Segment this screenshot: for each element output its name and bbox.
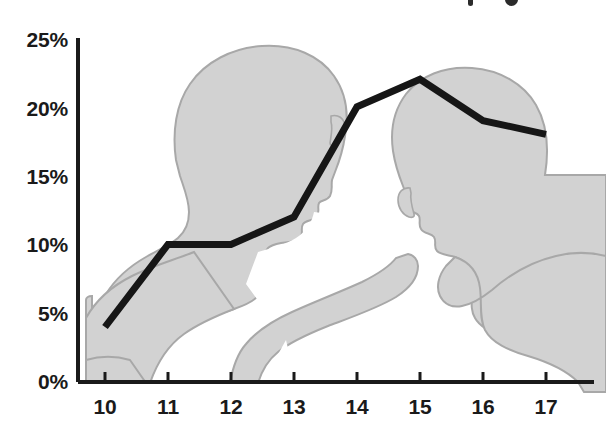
y-tick-label-20: 20%	[0, 97, 68, 121]
x-tick-label-13: 13	[283, 395, 306, 419]
background-illustration	[86, 46, 606, 392]
y-tick-label-15: 15%	[0, 165, 68, 189]
chart-canvas	[0, 0, 606, 439]
x-tick-label-15: 15	[409, 395, 432, 419]
x-tick-label-11: 11	[157, 395, 179, 419]
y-tick-label-10: 10%	[0, 233, 68, 257]
y-tick-label-5: 5%	[0, 302, 68, 326]
person-right-body	[438, 253, 606, 392]
x-tick-label-12: 12	[220, 395, 243, 419]
y-tick-label-25: 25%	[0, 28, 68, 52]
x-tick-label-10: 10	[94, 395, 117, 419]
x-tick-label-14: 14	[346, 395, 369, 419]
x-tick-label-16: 16	[472, 395, 495, 419]
y-tick-label-0: 0%	[0, 370, 68, 394]
x-tick-label-17: 17	[535, 395, 558, 419]
chart-figure: 25% 20% 15% 10% 5% 0% 10 11 12 13 14 15 …	[0, 0, 606, 439]
